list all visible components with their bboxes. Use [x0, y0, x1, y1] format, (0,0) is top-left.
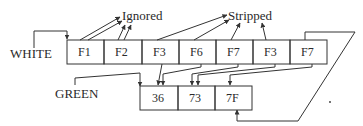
- green-cell: 73: [189, 91, 201, 105]
- ignored-arrow-f2b: [124, 25, 131, 40]
- white-label: WHITE: [10, 46, 52, 61]
- white-cell: F7: [301, 45, 314, 59]
- white-cell: F2: [115, 45, 128, 59]
- white-row: F1 F2 F3 F6 F7 F3 F7: [67, 40, 327, 64]
- green-cell: 7F: [226, 91, 239, 105]
- white-cell: F6: [190, 45, 203, 59]
- white-cell: F1: [78, 45, 91, 59]
- white-cell: F7: [227, 45, 240, 59]
- ignored-label: Ignored: [122, 8, 163, 23]
- stripped-arrow-f7: [231, 23, 240, 40]
- f3-to-36-arrow: [158, 64, 162, 85]
- stripped-label: Stripped: [228, 8, 273, 23]
- ignored-arrow-f2a: [118, 25, 125, 40]
- white-cell: F3: [153, 45, 166, 59]
- byte-stream-diagram: Ignored Stripped WHITE F1 F2 F3 F6 F7 F3…: [0, 0, 363, 126]
- green-cell: 36: [152, 91, 164, 105]
- ignored-arrow-f1b: [88, 21, 122, 40]
- stray-dot: [329, 101, 331, 103]
- stripped-arrow-f6: [194, 20, 229, 40]
- wrap-to-7f-arrow: [237, 110, 298, 121]
- ignored-arrow-f1a: [80, 17, 120, 40]
- white-cell: F3: [264, 45, 277, 59]
- f6-to-36-arrow: [163, 64, 201, 85]
- green-row: 36 73 7F: [140, 86, 252, 110]
- stripped-arrow-f3b: [262, 23, 266, 40]
- green-label: GREEN: [55, 86, 99, 101]
- green-entry-arrow: [75, 73, 140, 86]
